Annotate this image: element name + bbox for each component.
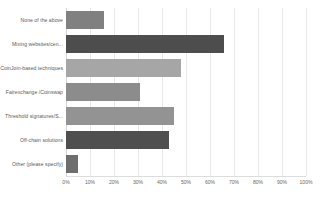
bar-row	[66, 128, 306, 152]
bar-row	[66, 152, 306, 176]
category-axis-labels: None of the aboveMixing websites/cen...C…	[0, 8, 63, 176]
bar	[66, 107, 174, 125]
bar	[66, 131, 169, 149]
x-tick-label: 70%	[229, 179, 239, 186]
gridline-100%	[306, 8, 307, 176]
bar	[66, 155, 78, 173]
x-tick-label: 90%	[277, 179, 287, 186]
x-tick-label: 50%	[181, 179, 191, 186]
bar	[66, 35, 224, 53]
category-label: Other (please specify)	[0, 161, 63, 167]
x-axis-line	[66, 176, 306, 177]
bar-series	[66, 8, 306, 176]
bar	[66, 59, 181, 77]
bar-row	[66, 8, 306, 32]
bar-row	[66, 32, 306, 56]
horizontal-bar-chart: None of the aboveMixing websites/cen...C…	[0, 0, 327, 203]
x-tick-label: 60%	[205, 179, 215, 186]
x-tick-label: 20%	[109, 179, 119, 186]
category-label: Off-chain solutions	[0, 137, 63, 143]
category-label: CoinJoin-based techniques	[0, 65, 63, 71]
category-label: None of the above	[0, 17, 63, 23]
category-label: Mixing websites/cen...	[0, 41, 63, 47]
bar	[66, 83, 140, 101]
category-label: Threshold signatures/S...	[0, 113, 63, 119]
x-tick-label: 80%	[253, 179, 263, 186]
x-tick-label: 10%	[85, 179, 95, 186]
x-tick-label: 0%	[62, 179, 69, 186]
bar-row	[66, 104, 306, 128]
x-tick-label: 30%	[133, 179, 143, 186]
x-axis-tick-labels: 0%10%20%30%40%50%60%70%80%90%100%	[66, 179, 306, 193]
category-label: Fairexchange /Coinswap	[0, 89, 63, 95]
x-tick-label: 100%	[299, 179, 312, 186]
bar	[66, 11, 104, 29]
x-tick-label: 40%	[157, 179, 167, 186]
bar-row	[66, 56, 306, 80]
bar-row	[66, 80, 306, 104]
plot-area	[66, 8, 306, 176]
